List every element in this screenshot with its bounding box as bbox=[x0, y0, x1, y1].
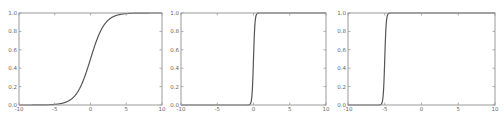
y-tick-label: 0.6 bbox=[170, 47, 179, 53]
sigmoid-curve bbox=[19, 13, 162, 105]
x-tick-label: 0 bbox=[420, 106, 424, 112]
x-tick-label: -5 bbox=[52, 106, 58, 112]
subplot-2: -10-505100.00.20.40.60.81.0 bbox=[170, 10, 330, 112]
sigmoid-curve bbox=[181, 13, 326, 105]
x-tick-label: 0 bbox=[89, 106, 93, 112]
figure-canvas: -10-505100.00.20.40.60.81.0-10-505100.00… bbox=[0, 0, 504, 121]
y-tick-label: 1.0 bbox=[337, 10, 346, 16]
y-tick-label: 0.0 bbox=[8, 102, 17, 108]
x-tick-label: 0 bbox=[252, 106, 256, 112]
y-tick-label: 0.6 bbox=[337, 47, 346, 53]
y-tick-label: 0.0 bbox=[170, 102, 179, 108]
axes-frame bbox=[348, 13, 495, 105]
y-tick-label: 0.2 bbox=[170, 84, 179, 90]
y-tick-label: 1.0 bbox=[8, 10, 17, 16]
sigmoid-curve bbox=[348, 13, 495, 105]
x-tick-label: 10 bbox=[492, 106, 499, 112]
subplot-3: -10-505100.00.20.40.60.81.0 bbox=[337, 10, 499, 112]
y-tick-label: 0.4 bbox=[337, 65, 346, 71]
y-tick-label: 0.4 bbox=[8, 65, 17, 71]
y-tick-label: 0.6 bbox=[8, 47, 17, 53]
x-tick-label: 10 bbox=[323, 106, 330, 112]
y-tick-label: 0.2 bbox=[8, 84, 17, 90]
sigmoid-comparison-figure: -10-505100.00.20.40.60.81.0-10-505100.00… bbox=[0, 0, 504, 121]
y-tick-label: 0.2 bbox=[337, 84, 346, 90]
y-tick-label: 0.8 bbox=[8, 28, 17, 34]
y-tick-label: 0.8 bbox=[337, 28, 346, 34]
x-tick-label: 5 bbox=[457, 106, 461, 112]
y-tick-label: 0.4 bbox=[170, 65, 179, 71]
x-tick-label: 5 bbox=[288, 106, 292, 112]
x-tick-label: -5 bbox=[382, 106, 388, 112]
x-tick-label: 5 bbox=[125, 106, 129, 112]
subplot-1: -10-505100.00.20.40.60.81.0 bbox=[8, 10, 166, 112]
y-tick-label: 1.0 bbox=[170, 10, 179, 16]
x-tick-label: 10 bbox=[159, 106, 166, 112]
y-tick-label: 0.8 bbox=[170, 28, 179, 34]
x-tick-label: -5 bbox=[215, 106, 221, 112]
y-tick-label: 0.0 bbox=[337, 102, 346, 108]
